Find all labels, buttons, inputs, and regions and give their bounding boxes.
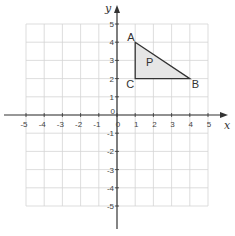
y-tick-label: -2: [107, 147, 115, 156]
x-tick-label: 3: [170, 120, 175, 129]
x-tick-label: -4: [39, 120, 47, 129]
x-tick-label: 5: [207, 120, 212, 129]
y-tick-label: 5: [110, 20, 115, 29]
y-tick-label: 2: [110, 75, 115, 84]
vertex-label-c: C: [126, 78, 134, 90]
vertex-label-a: A: [127, 31, 135, 43]
y-tick-label: -3: [107, 166, 115, 175]
y-tick-label: 4: [110, 38, 115, 47]
vertex-label-b: B: [192, 78, 199, 90]
shape-label-p: P: [146, 56, 153, 68]
y-tick-label: -4: [107, 184, 115, 193]
x-tick-label: -1: [93, 120, 101, 129]
x-tick-label: 1: [134, 120, 139, 129]
x-axis-label: x: [224, 119, 231, 132]
x-tick-label: 2: [152, 120, 157, 129]
coordinate-grid: -5-4-3-2-1012345-5-4-3-2-1012345xyABCP: [0, 0, 235, 236]
y-axis-label: y: [104, 2, 112, 15]
x-tick-label: -5: [20, 120, 28, 129]
x-tick-label: 0: [116, 120, 121, 129]
y-tick-label: 1: [110, 93, 115, 102]
axes: [4, 5, 228, 229]
y-tick-label: 0: [111, 107, 116, 116]
labels: -5-4-3-2-1012345-5-4-3-2-1012345xyABCP: [20, 2, 231, 211]
y-tick-label: -5: [107, 202, 115, 211]
y-tick-label: -1: [107, 129, 115, 138]
x-tick-label: -3: [57, 120, 65, 129]
x-tick-label: -2: [75, 120, 83, 129]
x-tick-label: 4: [189, 120, 194, 129]
y-tick-label: 3: [110, 56, 115, 65]
